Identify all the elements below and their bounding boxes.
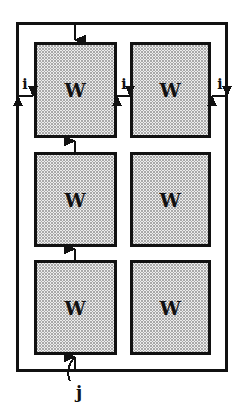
cell-r2c2-label: W (160, 191, 181, 210)
diagram-canvas: W W W W W W i i i j (0, 0, 242, 417)
cell-r1c1-label: W (65, 81, 86, 100)
cell-r1c2-label: W (160, 81, 181, 100)
dim-j-label: j (76, 384, 82, 401)
cell-r3c2-label: W (160, 299, 181, 318)
dim-i-middle-label: i (121, 77, 126, 91)
cell-r3c1-label: W (65, 299, 86, 318)
dim-i-right-label: i (217, 77, 222, 91)
dim-i-left-label: i (22, 77, 27, 91)
cell-r2c1-label: W (65, 191, 86, 210)
diagram-svg (0, 0, 242, 417)
